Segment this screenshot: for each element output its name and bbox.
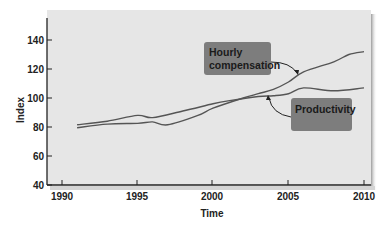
line-chart: 40 60 80 100 120 140 1990 1995 2000 2005… <box>0 0 389 230</box>
callout-hourly-compensation: Hourly compensation <box>204 42 280 75</box>
y-tick-label: 60 <box>33 151 45 162</box>
x-tick-label: 1990 <box>51 191 74 202</box>
y-tick-label: 140 <box>27 35 44 46</box>
x-tick-label: 2000 <box>201 191 224 202</box>
x-tick-label: 1995 <box>126 191 149 202</box>
y-tick-label: 40 <box>33 180 45 191</box>
plot-shadow-bottom <box>50 186 375 190</box>
y-axis-title: Index <box>15 97 26 124</box>
y-tick-label: 100 <box>27 93 44 104</box>
y-tick-label: 120 <box>27 64 44 75</box>
x-tick-label: 2010 <box>353 191 376 202</box>
plot-shadow <box>371 14 377 190</box>
callout-productivity: Productivity <box>291 98 356 131</box>
y-tick-label: 80 <box>33 122 45 133</box>
callout-label: compensation <box>209 59 280 71</box>
plot-area <box>47 10 371 185</box>
callout-label: Productivity <box>295 103 356 115</box>
x-tick-label: 2005 <box>277 191 300 202</box>
callout-label: Hourly <box>209 46 242 58</box>
x-axis-title: Time <box>200 208 224 219</box>
